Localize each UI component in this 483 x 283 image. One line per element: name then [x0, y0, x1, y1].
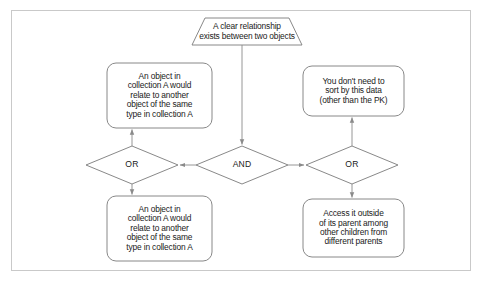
diagram-frame-border: [11, 10, 471, 271]
diagram-canvas: A clear relationship exists between two …: [0, 0, 483, 283]
